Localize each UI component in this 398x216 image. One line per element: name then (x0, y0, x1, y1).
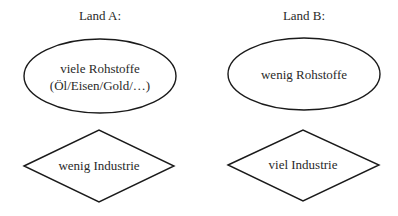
land-a-resources-line2: (Öl/Eisen/Gold/…) (50, 78, 150, 93)
land-a-resources-line1: viele Rohstoffe (60, 61, 140, 76)
land-b-resources-line1: wenig Rohstoffe (261, 67, 347, 82)
land-b-industry-label: viel Industrie (269, 157, 338, 172)
land-a-resources-ellipse (24, 39, 176, 113)
column-land-a: Land A: viele Rohstoffe (Öl/Eisen/Gold/…… (24, 8, 176, 202)
land-a-industry-label: wenig Industrie (58, 158, 139, 173)
land-a-title: Land A: (79, 8, 121, 23)
column-land-b: Land B: wenig Rohstoffe viel Industrie (228, 8, 380, 201)
diagram-canvas: Land A: viele Rohstoffe (Öl/Eisen/Gold/…… (0, 0, 398, 216)
land-b-title: Land B: (283, 8, 325, 23)
